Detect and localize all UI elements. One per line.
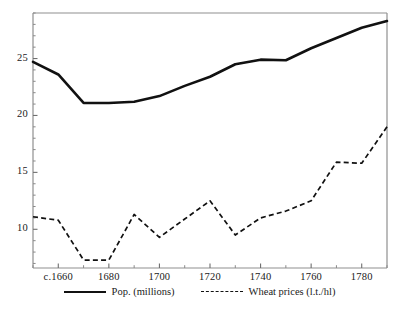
legend-swatch-solid-line xyxy=(64,291,106,293)
legend-entry-population: Pop. (millions) xyxy=(64,286,175,297)
legend-label-wheat-prices: Wheat prices (l.t./hl) xyxy=(249,286,336,297)
series-line-population xyxy=(33,21,387,103)
y-axis-label-10: 10 xyxy=(4,222,28,233)
x-axis-ticks xyxy=(33,264,387,269)
y-axis-label-20: 20 xyxy=(4,108,28,119)
y-axis-ticks xyxy=(33,59,38,230)
legend-entry-wheat-prices: Wheat prices (l.t./hl) xyxy=(201,286,336,297)
chart-legend: Pop. (millions) Wheat prices (l.t./hl) xyxy=(0,286,399,297)
y-axis-label-25: 25 xyxy=(4,52,28,63)
chart-canvas xyxy=(0,0,399,311)
y-axis-label-15: 15 xyxy=(4,165,28,176)
series-line-wheat-prices xyxy=(33,127,387,260)
legend-label-population: Pop. (millions) xyxy=(112,286,175,297)
legend-swatch-dashed-line xyxy=(201,291,243,292)
chart-figure: 10152025 c.1660168017001720174017601780 … xyxy=(0,0,399,311)
x-axis-label-1780: 1780 xyxy=(332,271,392,282)
